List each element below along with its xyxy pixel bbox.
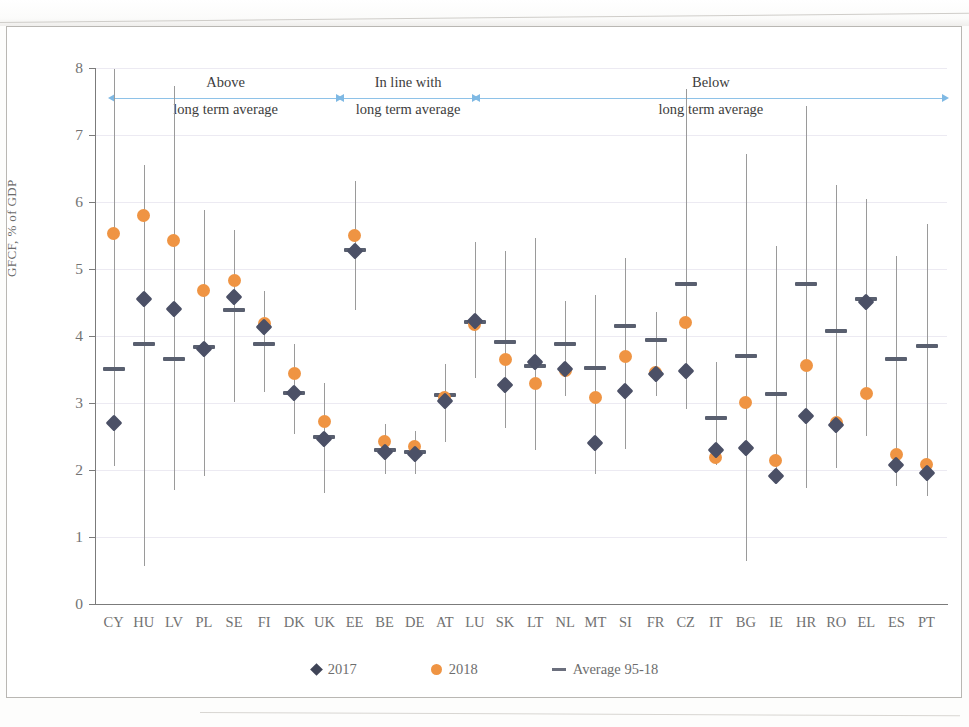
average-marker: [645, 338, 667, 342]
range-line: [746, 154, 747, 561]
range-line: [927, 224, 928, 496]
range-line: [806, 106, 807, 488]
data-point-2018: [288, 367, 301, 380]
range-line: [114, 69, 115, 466]
range-line: [776, 246, 777, 473]
y-axis-tick-label: 4: [61, 328, 83, 344]
y-axis-tick-label: 5: [61, 261, 83, 277]
x-axis-label-pt: PT: [905, 615, 949, 630]
plot-area: [95, 69, 947, 604]
chart-legend: 2017 2018 Average 95-18: [7, 661, 963, 678]
data-point-2018: [739, 396, 752, 409]
average-marker: [614, 324, 636, 328]
average-marker: [675, 282, 697, 286]
average-marker: [584, 366, 606, 370]
average-marker: [494, 340, 516, 344]
average-marker: [554, 342, 576, 346]
range-line: [565, 301, 566, 396]
legend-label-2017: 2017: [328, 661, 357, 678]
data-point-2018: [167, 234, 180, 247]
y-axis-tick-label: 0: [61, 596, 83, 612]
average-marker: [103, 367, 125, 371]
y-axis-tick-label: 7: [61, 127, 83, 143]
average-marker: [825, 329, 847, 333]
data-point-2018: [348, 229, 361, 242]
average-marker: [735, 354, 757, 358]
legend-item-2017: 2017: [312, 661, 357, 678]
legend-label-2018: 2018: [449, 661, 478, 678]
data-point-2017: [497, 377, 514, 394]
y-axis-label: GFCF, % of GDP: [4, 97, 20, 277]
y-axis-tick-label: 8: [61, 60, 83, 76]
range-line: [144, 165, 145, 566]
y-axis-tick-label: 2: [61, 462, 83, 478]
data-point-2018: [679, 316, 692, 329]
average-marker: [705, 416, 727, 420]
y-axis-tick-label: 1: [61, 529, 83, 545]
data-point-2018: [860, 387, 873, 400]
data-point-2018: [800, 359, 813, 372]
dash-marker-icon: [552, 668, 566, 671]
data-point-2017: [226, 288, 243, 305]
range-line: [174, 86, 175, 490]
data-point-2017: [888, 456, 905, 473]
average-marker: [885, 357, 907, 361]
data-point-2017: [105, 414, 122, 431]
legend-label-average: Average 95-18: [573, 661, 659, 678]
data-point-2018: [769, 454, 782, 467]
data-point-2018: [107, 227, 120, 240]
data-point-2017: [798, 408, 815, 425]
data-point-2017: [165, 300, 182, 317]
legend-item-average: Average 95-18: [552, 661, 659, 678]
average-marker: [916, 344, 938, 348]
average-marker: [223, 308, 245, 312]
diamond-marker-icon: [310, 663, 323, 676]
data-point-2017: [737, 439, 754, 456]
data-point-2017: [135, 290, 152, 307]
average-marker: [133, 342, 155, 346]
average-marker: [795, 282, 817, 286]
data-point-2018: [499, 353, 512, 366]
data-point-2017: [858, 294, 875, 311]
data-point-2018: [589, 391, 602, 404]
range-line: [686, 89, 687, 409]
data-point-2018: [228, 274, 241, 287]
range-line: [656, 312, 657, 396]
range-line: [475, 242, 476, 378]
data-point-2018: [197, 284, 210, 297]
data-point-2017: [527, 354, 544, 371]
average-marker: [253, 342, 275, 346]
circle-marker-icon: [431, 664, 442, 675]
scan-edge: [0, 0, 969, 26]
data-point-2017: [346, 243, 363, 260]
range-line: [234, 230, 235, 402]
y-axis-tick-label: 6: [61, 194, 83, 210]
range-line: [866, 199, 867, 436]
legend-item-2018: 2018: [431, 661, 478, 678]
data-point-2017: [767, 467, 784, 484]
chart-frame: GFCF, % of GDP 012345678 Abovelong term …: [6, 26, 962, 698]
average-marker: [765, 392, 787, 396]
data-point-2017: [316, 430, 333, 447]
range-line: [535, 238, 536, 450]
data-point-2017: [286, 384, 303, 401]
average-marker: [163, 357, 185, 361]
data-point-2017: [677, 363, 694, 380]
data-point-2018: [137, 209, 150, 222]
y-axis-tick-label: 3: [61, 395, 83, 411]
data-point-2018: [529, 377, 542, 390]
data-point-2017: [557, 361, 574, 378]
data-point-2018: [318, 415, 331, 428]
data-point-2017: [617, 383, 634, 400]
x-axis-line: [95, 604, 948, 605]
data-point-2017: [587, 434, 604, 451]
data-point-2018: [619, 350, 632, 363]
data-point-2017: [195, 341, 212, 358]
